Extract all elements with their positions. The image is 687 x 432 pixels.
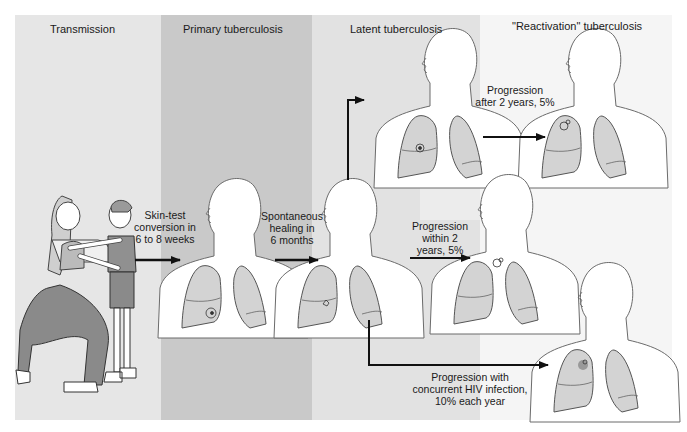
panel-title-reactivation: "Reactivation" tuberculosis: [512, 20, 642, 32]
adult-child-figure: [16, 196, 136, 392]
latent-torso-lower: [274, 179, 424, 339]
label-progression-hiv: Progression with concurrent HIV infectio…: [400, 371, 540, 407]
latent-torso-upper: [374, 29, 524, 189]
diagram-artwork: [0, 0, 687, 432]
label-progression-within-2-years: Progression within 2 years, 5%: [405, 220, 475, 256]
label-skin-test-conversion: Skin-test conversion in 6 to 8 weeks: [130, 209, 200, 245]
panel-title-transmission: Transmission: [50, 23, 115, 35]
panel-title-latent: Latent tuberculosis: [350, 23, 442, 35]
label-spontaneous-healing: Spontaneous healing in 6 months: [255, 210, 329, 246]
panel-title-primary: Primary tuberculosis: [183, 23, 283, 35]
label-progression-after-2-years: Progression after 2 years, 5%: [465, 84, 565, 108]
reactivation-torso-upper: [518, 29, 668, 189]
